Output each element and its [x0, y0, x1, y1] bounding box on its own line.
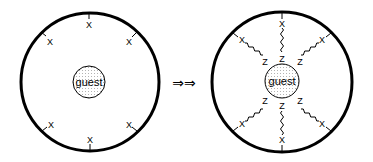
- site-marker: X: [319, 119, 325, 129]
- guest-label-left: guest: [76, 76, 103, 88]
- site-marker: X: [239, 119, 245, 129]
- site-marker: X: [86, 20, 92, 30]
- site-marker: X: [239, 35, 245, 45]
- double-arrow-icon: ⇒⇒: [172, 75, 196, 91]
- guest-right: guest: [265, 64, 299, 98]
- linker-end-marker: Z: [279, 54, 285, 64]
- site-marker: X: [48, 120, 54, 130]
- linker-end-marker: Z: [262, 57, 268, 67]
- linker-end-marker: Z: [262, 96, 268, 106]
- site-marker: X: [279, 135, 285, 145]
- left-panel: guest X X X X X X: [21, 13, 159, 151]
- linker-end-marker: Z: [297, 96, 303, 106]
- guest-label-right: guest: [269, 75, 296, 87]
- site-marker: X: [47, 37, 53, 47]
- linker-end-marker: Z: [279, 101, 285, 111]
- site-marker: X: [279, 19, 285, 29]
- site-marker: X: [319, 35, 325, 45]
- right-panel: guest X X X X X: [212, 12, 352, 152]
- guest-left: guest: [73, 66, 105, 98]
- linker-end-marker: Z: [297, 57, 303, 67]
- site-marker: X: [126, 120, 132, 130]
- site-marker: X: [87, 135, 93, 145]
- host-guest-diagram: guest X X X X X X ⇒⇒: [0, 0, 373, 162]
- site-marker: X: [126, 37, 132, 47]
